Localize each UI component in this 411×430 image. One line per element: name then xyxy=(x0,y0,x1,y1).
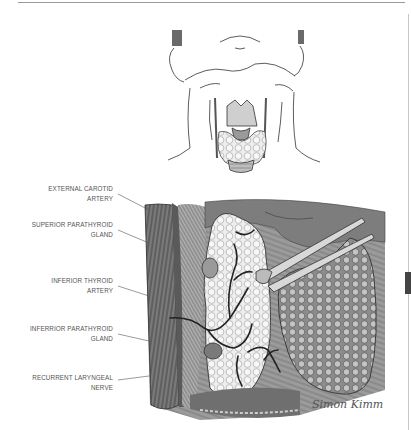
surgical-view xyxy=(145,200,385,420)
anatomy-illustration xyxy=(0,0,411,430)
artist-signature: Simon Kimm xyxy=(312,398,383,411)
leader-lines xyxy=(118,194,149,380)
label-inferior-parathyroid-gland: INFERRIOR PARATHYROID GLAND xyxy=(30,324,113,344)
label-recurrent-laryngeal-nerve: RECURRENT LARYNGEAL NERVE xyxy=(32,373,113,393)
label-superior-parathyroid-gland: SUPERIOR PARATHYROID GLAND xyxy=(32,220,113,240)
neck-inset xyxy=(168,30,320,173)
label-external-carotid-artery: EXTERNAL CAROTID ARTERY xyxy=(48,184,113,204)
label-inferior-thyroid-artery: INFERIOR THYROID ARTERY xyxy=(51,276,113,296)
